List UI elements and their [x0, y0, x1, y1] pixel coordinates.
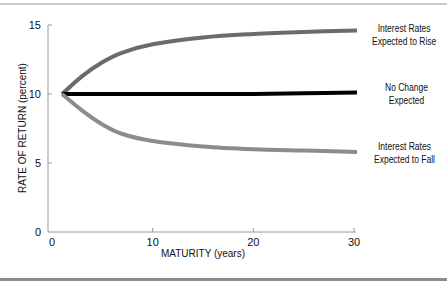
- x-axis-title: MATURITY (years): [161, 248, 245, 259]
- y-tick-label: 10: [29, 88, 41, 100]
- x-tick-label: 30: [348, 236, 360, 248]
- series-lines: [62, 31, 357, 152]
- y-axis-title: RATE OF RETURN (percent): [17, 63, 28, 193]
- y-tick-label: 5: [35, 157, 41, 169]
- legend-fall-line2: Expected to Fall: [374, 153, 435, 166]
- legend-fall-line1: Interest Rates: [374, 140, 435, 153]
- axes: 0510150102030: [29, 19, 360, 248]
- x-tick-label: 20: [247, 236, 259, 248]
- legend-no-change-line2: Expected: [385, 94, 428, 107]
- legend-no-change: No Change Expected: [385, 81, 428, 107]
- legend-rise-line2: Expected to Rise: [372, 35, 436, 48]
- fall-curve: [62, 94, 357, 152]
- no-change-line: [62, 93, 357, 94]
- x-tick-label: 0: [49, 236, 55, 248]
- y-tick-label: 15: [29, 19, 41, 31]
- rise-curve: [62, 31, 357, 94]
- legend-rise-line1: Interest Rates: [372, 22, 436, 35]
- legend-no-change-line1: No Change: [385, 81, 428, 94]
- bottom-rule: [0, 278, 447, 281]
- legend-fall: Interest Rates Expected to Fall: [374, 140, 435, 166]
- y-tick-label: 0: [35, 226, 41, 238]
- legend-rise: Interest Rates Expected to Rise: [372, 22, 436, 48]
- x-tick-label: 10: [147, 236, 159, 248]
